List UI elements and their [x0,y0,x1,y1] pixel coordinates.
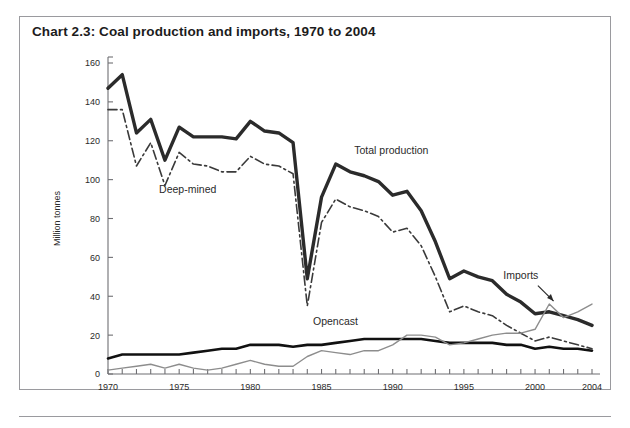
y-tick-label: 120 [85,136,100,146]
x-tick-label: 2004 [582,382,602,391]
page-root: Chart 2.3: Coal production and imports, … [0,0,630,428]
series-line-opencast [108,339,592,358]
y-tick-label: 100 [85,175,100,185]
series-line-deep-mined [108,110,592,349]
y-tick-label: 60 [90,253,100,263]
series-label-opencast: Opencast [313,315,358,327]
x-tick-label: 1985 [312,382,332,391]
series-label-imports: Imports [503,269,538,281]
chart-plot-area: 0204060801001201401601970197519801985199… [20,17,612,391]
series-label-deep-mined: Deep-mined [159,183,216,195]
line-chart-svg: 0204060801001201401601970197519801985199… [20,17,612,391]
footer-divider [19,416,611,417]
y-tick-label: 160 [85,58,100,68]
y-tick-label: 80 [90,214,100,224]
series-label-total-production: Total production [354,144,428,156]
x-tick-label: 1995 [454,382,474,391]
x-tick-label: 2000 [525,382,545,391]
y-tick-label: 0 [95,369,100,379]
y-tick-label: 140 [85,97,100,107]
y-tick-label: 20 [90,331,100,341]
series-line-imports [108,304,592,370]
cut-off-header-text [0,0,630,13]
series-line-total-production [108,75,592,326]
x-tick-label: 1970 [98,382,118,391]
x-tick-label: 1975 [169,382,189,391]
y-axis-title: Million tonnes [52,190,62,246]
x-tick-label: 1990 [383,382,403,391]
y-tick-label: 40 [90,292,100,302]
x-tick-label: 1980 [240,382,260,391]
chart-panel: Chart 2.3: Coal production and imports, … [19,16,611,390]
